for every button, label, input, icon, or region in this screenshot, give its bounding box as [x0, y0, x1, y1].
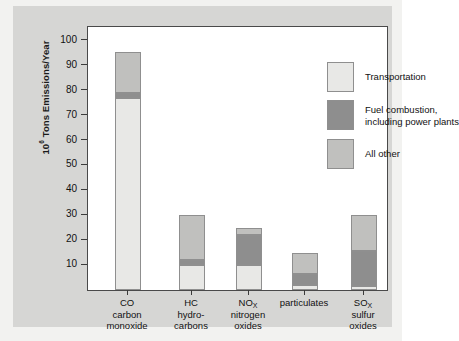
x-axis-label-line3: oxides — [318, 320, 408, 332]
bar-segment — [115, 52, 141, 93]
x-tick-mark — [127, 290, 128, 295]
bar-HC[interactable] — [179, 27, 205, 292]
bar-CO[interactable] — [115, 27, 141, 292]
bar-segment — [115, 93, 141, 98]
y-tick: 40 — [13, 183, 87, 195]
bar-segment — [351, 286, 377, 290]
bar-segment — [292, 285, 318, 290]
bar-particulates[interactable] — [292, 27, 318, 292]
x-axis-label-SOx: SOXsulfuroxides — [318, 297, 408, 332]
y-tick-label: 30 — [66, 208, 77, 220]
legend-label-line2: including power plants — [365, 116, 459, 128]
y-tick-label: 70 — [66, 109, 77, 121]
bar-segment — [179, 265, 205, 290]
bar-segment — [236, 265, 262, 290]
legend-swatch — [327, 139, 354, 169]
y-tick-label: 100 — [60, 34, 77, 46]
bar-segment — [115, 98, 141, 290]
y-tick: 90 — [13, 59, 87, 71]
y-tick-label: 80 — [66, 84, 77, 96]
bar-NOx[interactable] — [236, 27, 262, 292]
y-tick-label: 60 — [66, 134, 77, 146]
plot-area: TransportationFuel combustion,including … — [87, 26, 388, 291]
x-axis-label-subscript: X — [368, 302, 373, 309]
y-tick: 30 — [13, 208, 87, 220]
x-tick-mark — [304, 290, 305, 295]
figure-panel: 106 Tons Emissions/Year 1020304050607080… — [13, 6, 392, 327]
y-tick-label: 50 — [66, 158, 77, 170]
bar-segment — [351, 215, 377, 251]
y-tick: 10 — [13, 258, 87, 270]
bar-segment — [179, 260, 205, 265]
bar-segment — [179, 215, 205, 260]
bar-segment — [236, 235, 262, 265]
legend-label: All other — [365, 148, 400, 160]
bar-segment — [292, 253, 318, 274]
y-tick-label: 40 — [66, 183, 77, 195]
x-axis-label-subscript: X — [253, 302, 258, 309]
x-axis-label-line1: SOX — [318, 297, 408, 309]
legend-item[interactable]: Transportation — [327, 62, 426, 92]
y-tick: 100 — [13, 34, 87, 46]
x-tick-mark — [248, 290, 249, 295]
x-tick-mark — [191, 290, 192, 295]
bar-segment — [292, 274, 318, 285]
legend-item[interactable]: Fuel combustion,including power plants — [327, 100, 459, 130]
legend-label: Fuel combustion,including power plants — [365, 104, 459, 127]
legend-label-line1: Transportation — [365, 71, 426, 83]
legend-swatch — [327, 62, 354, 92]
bar-segment — [236, 228, 262, 235]
y-tick-label: 10 — [66, 258, 77, 270]
x-axis-label-line3: oxides — [203, 320, 293, 332]
y-tick: 80 — [13, 84, 87, 96]
y-tick: 70 — [13, 109, 87, 121]
x-axis-label-line2: nitrogen — [203, 309, 293, 321]
y-tick: 60 — [13, 134, 87, 146]
legend-label-line1: All other — [365, 148, 400, 160]
legend-label: Transportation — [365, 71, 426, 83]
x-tick-mark — [363, 290, 364, 295]
y-tick-label: 20 — [66, 233, 77, 245]
x-axis-label-line2: sulfur — [318, 309, 408, 321]
y-tick: 50 — [13, 158, 87, 170]
legend-item[interactable]: All other — [327, 139, 400, 169]
bar-segment — [351, 251, 377, 286]
y-tick-label: 90 — [66, 59, 77, 71]
legend-swatch — [327, 100, 354, 130]
y-tick: 20 — [13, 233, 87, 245]
legend-label-line1: Fuel combustion, — [365, 104, 459, 116]
